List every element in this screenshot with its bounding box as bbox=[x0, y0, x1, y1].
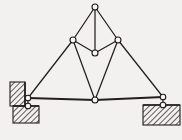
truss-joint-upper-right bbox=[115, 37, 121, 43]
truss-figure bbox=[0, 0, 182, 140]
truss-joint-bottom-center bbox=[92, 97, 98, 103]
truss-joint-mid-center bbox=[92, 50, 98, 56]
left-wall-hatch bbox=[10, 82, 25, 106]
truss-joint-right-pin-low bbox=[160, 102, 166, 108]
truss-joint-upper-left bbox=[70, 37, 76, 43]
truss-diagram-canvas bbox=[0, 0, 182, 140]
truss-joint-right-pin-top bbox=[160, 94, 166, 100]
truss-joint-left-pin-low bbox=[25, 103, 31, 109]
truss-joint-apex bbox=[92, 4, 98, 10]
right-base-hatch bbox=[143, 105, 180, 125]
truss-joint-left-pin-top bbox=[25, 95, 31, 101]
